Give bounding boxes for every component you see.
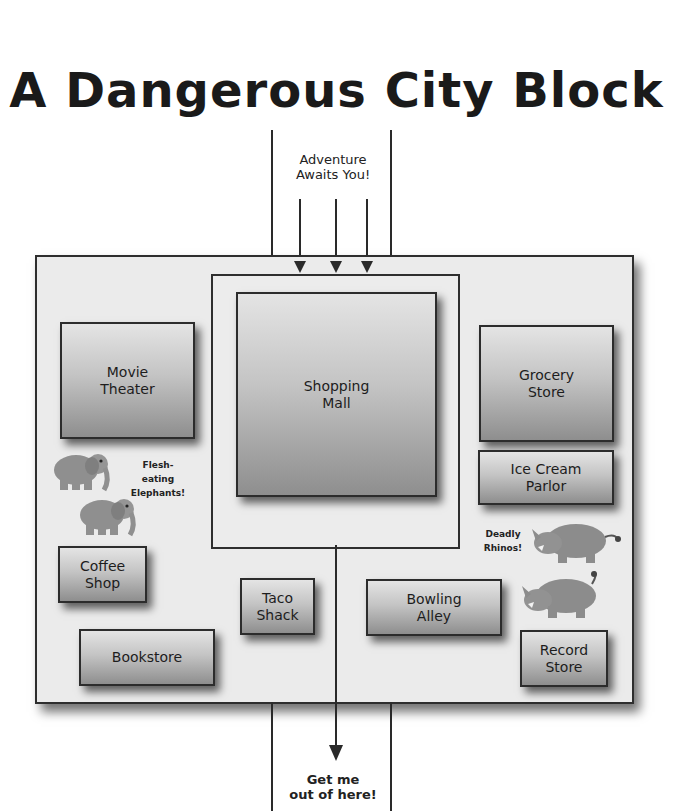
entrance-road-left xyxy=(271,130,273,256)
building-grocery-store[interactable]: Grocery Store xyxy=(479,325,614,442)
elephant-icon xyxy=(76,495,140,539)
building-movie-theater[interactable]: Movie Theater xyxy=(60,322,195,439)
building-taco-shack[interactable]: Taco Shack xyxy=(240,578,315,635)
exit-arrow-shaft xyxy=(335,545,337,745)
building-bookstore[interactable]: Bookstore xyxy=(79,629,215,686)
arrow-down-icon xyxy=(294,261,306,273)
hazard-label-elephants: Flesh-eating Elephants! xyxy=(128,458,188,500)
building-ice-cream-parlor[interactable]: Ice Cream Parlor xyxy=(478,450,614,505)
building-coffee-shop[interactable]: Coffee Shop xyxy=(58,546,147,603)
entrance-arrow-3-shaft xyxy=(366,199,368,261)
entrance-road-right xyxy=(390,130,392,256)
entrance-arrow-1-shaft xyxy=(299,199,301,261)
rhino-icon xyxy=(520,570,612,622)
rhino-icon xyxy=(530,515,622,567)
elephant-icon xyxy=(50,450,114,494)
exit-note: Get me out of here! xyxy=(283,772,383,802)
entrance-arrow-2-shaft xyxy=(335,199,337,261)
arrow-down-icon xyxy=(330,261,342,273)
building-bowling-alley[interactable]: Bowling Alley xyxy=(366,579,502,636)
arrow-down-icon xyxy=(329,745,343,761)
exit-road-left xyxy=(271,702,273,811)
diagram-title: A Dangerous City Block xyxy=(0,62,673,118)
arrow-down-icon xyxy=(361,261,373,273)
building-shopping-mall[interactable]: Shopping Mall xyxy=(236,292,437,497)
entrance-note: Adventure Awaits You! xyxy=(283,152,383,182)
building-record-store[interactable]: Record Store xyxy=(520,630,608,687)
exit-road-right xyxy=(390,702,392,811)
hazard-label-rhinos: Deadly Rhinos! xyxy=(482,527,524,555)
